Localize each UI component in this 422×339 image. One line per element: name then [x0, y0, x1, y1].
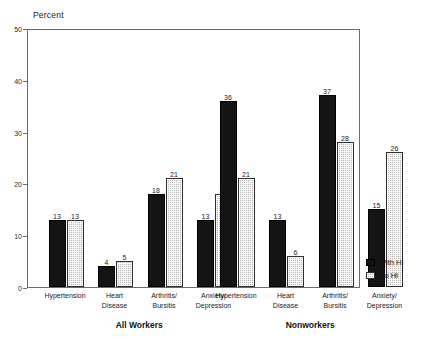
y-axis-tick-0: 0	[0, 285, 22, 292]
bar-value-label: 4	[105, 259, 109, 266]
bar-with-hi: 4	[98, 266, 115, 287]
bar-with-hi: 37	[319, 95, 336, 287]
category-label: Anxiety/Depression	[355, 291, 415, 310]
bar-value-label: 37	[323, 88, 331, 95]
bar-value-label: 5	[123, 254, 127, 261]
group-label-nonworkers: Nonworkers	[250, 320, 370, 330]
plot-area: 13134518211318362113637281526	[27, 29, 360, 288]
bar-value-label: 13	[274, 213, 282, 220]
y-axis-tick-20: 20	[0, 181, 22, 188]
bar-value-label: 13	[53, 213, 61, 220]
legend-label-with-hi: With HI	[379, 258, 404, 267]
bar-value-label: 36	[224, 94, 232, 101]
legend-swatch-with-hi	[366, 259, 375, 266]
y-axis-tick-50: 50	[0, 26, 22, 33]
y-axis-tick-10: 10	[0, 233, 22, 240]
y-axis-tickmark-0	[23, 288, 27, 289]
bar-value-label: 21	[242, 171, 250, 178]
y-axis-tick-30: 30	[0, 129, 22, 136]
legend: With HI No HI	[366, 258, 404, 284]
bar-with-hi: 13	[49, 220, 66, 287]
bar-value-label: 18	[152, 187, 160, 194]
bar-no-hi: 13	[67, 220, 84, 287]
bar-no-hi: 6	[287, 256, 304, 287]
bar-value-label: 13	[202, 213, 210, 220]
bar-value-label: 28	[341, 135, 349, 142]
legend-item-with-hi: With HI	[366, 258, 404, 267]
bar-no-hi: 5	[116, 261, 133, 287]
bar-chart: Percent 01020304050 13134518211318362113…	[0, 0, 422, 339]
bar-value-label: 21	[170, 171, 178, 178]
bar-no-hi: 21	[238, 178, 255, 287]
bar-with-hi: 18	[148, 194, 165, 287]
bar-value-label: 26	[391, 145, 399, 152]
bar-with-hi: 13	[269, 220, 286, 287]
legend-swatch-no-hi	[366, 272, 375, 279]
y-axis-tick-40: 40	[0, 77, 22, 84]
bars-container: 13134518211318362113637281526	[28, 30, 359, 287]
bar-with-hi: 36	[220, 101, 237, 287]
category-labels: HypertensionHeartDiseaseArthritis/Bursit…	[27, 291, 360, 321]
bar-value-label: 15	[373, 202, 381, 209]
bar-value-label: 13	[71, 213, 79, 220]
bar-no-hi: 28	[337, 142, 354, 287]
bar-with-hi: 13	[197, 220, 214, 287]
y-axis-tick-labels: 01020304050	[0, 0, 27, 339]
bar-value-label: 6	[294, 249, 298, 256]
legend-item-no-hi: No HI	[366, 271, 404, 280]
bar-no-hi: 21	[166, 178, 183, 287]
y-axis-title: Percent	[33, 10, 64, 20]
legend-label-no-hi: No HI	[379, 271, 398, 280]
group-label-all-workers: All Workers	[79, 320, 199, 330]
